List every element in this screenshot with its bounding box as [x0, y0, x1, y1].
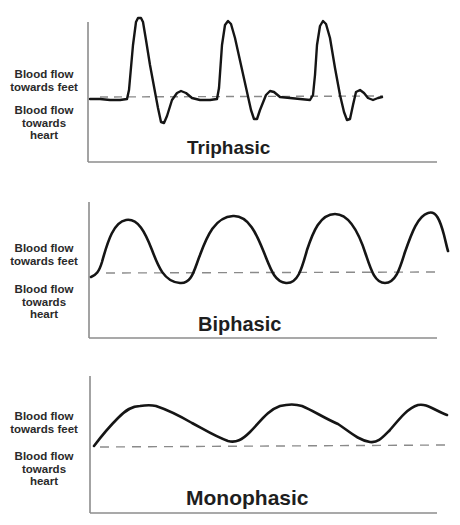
label-line: Blood flow — [0, 68, 88, 81]
label-line: heart — [0, 129, 88, 142]
label-line: towards feet — [0, 81, 88, 94]
label-line: Blood flow — [0, 450, 88, 463]
label-line: towards — [0, 463, 88, 476]
monophasic-title: Monophasic — [186, 486, 309, 510]
triphasic-waveform — [90, 18, 382, 123]
label-line: towards feet — [0, 255, 88, 268]
biphasic-title: Biphasic — [198, 313, 281, 336]
label-line: towards feet — [0, 423, 88, 436]
label-line: Blood flow — [0, 104, 88, 117]
biphasic-label-reverse: Blood flow towards heart — [0, 283, 88, 321]
label-line: Blood flow — [0, 283, 88, 296]
monophasic-label-forward: Blood flow towards feet — [0, 410, 88, 435]
triphasic-label-forward: Blood flow towards feet — [0, 68, 88, 93]
monophasic-waveform — [94, 405, 447, 447]
label-line: Blood flow — [0, 410, 88, 423]
triphasic-title: Triphasic — [187, 137, 270, 159]
monophasic-baseline — [100, 445, 447, 447]
label-line: heart — [0, 308, 88, 321]
biphasic-label-forward: Blood flow towards feet — [0, 242, 88, 267]
triphasic-label-reverse: Blood flow towards heart — [0, 104, 88, 142]
label-line: Blood flow — [0, 242, 88, 255]
monophasic-label-reverse: Blood flow towards heart — [0, 450, 88, 488]
label-line: towards — [0, 296, 88, 309]
label-line: towards — [0, 117, 88, 130]
label-line: heart — [0, 475, 88, 488]
